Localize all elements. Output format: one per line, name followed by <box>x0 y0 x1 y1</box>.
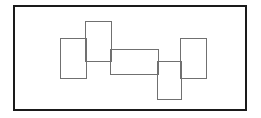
figure-container <box>0 0 261 118</box>
outer-border-frame <box>14 6 246 110</box>
rectangles-diagram <box>0 0 261 118</box>
